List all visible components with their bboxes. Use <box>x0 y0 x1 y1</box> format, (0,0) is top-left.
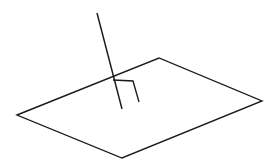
geometry-figure: Line perpendicular to a plane A parallel… <box>0 0 276 168</box>
diagram-canvas: Line perpendicular to a plane A parallel… <box>0 0 276 168</box>
diagram-background <box>0 0 276 168</box>
